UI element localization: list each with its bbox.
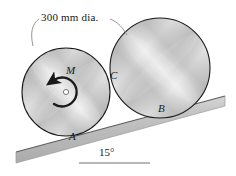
contact-point-b-label: B xyxy=(158,103,165,114)
moment-label: M xyxy=(66,65,75,76)
figure-canvas xyxy=(0,0,236,176)
contact-point-c-label: C xyxy=(110,70,117,81)
mechanics-figure: 300 mm dia. M C A B 15° xyxy=(0,0,236,176)
left-disc xyxy=(18,44,115,141)
contact-point-a-label: A xyxy=(69,131,76,142)
incline-angle-label: 15° xyxy=(99,147,114,158)
dimension-label: 300 mm dia. xyxy=(41,11,99,23)
left-disc-hub xyxy=(63,89,68,94)
leader-left xyxy=(32,19,39,46)
dimension-leaders xyxy=(32,19,127,46)
